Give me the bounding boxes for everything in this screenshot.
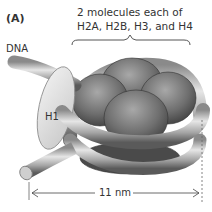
histone-label-line2: H2A, H2B, H3, and H4 [77,21,193,32]
histone-brace [72,35,190,45]
dna-label: DNA [6,44,28,54]
panel-label: (A) [6,13,25,24]
h1-label: H1 [45,112,59,122]
histone-label-line1: 2 molecules each of [77,7,182,18]
dna-lower-arm [26,148,74,173]
dimension-label: 11 nm [97,188,133,198]
